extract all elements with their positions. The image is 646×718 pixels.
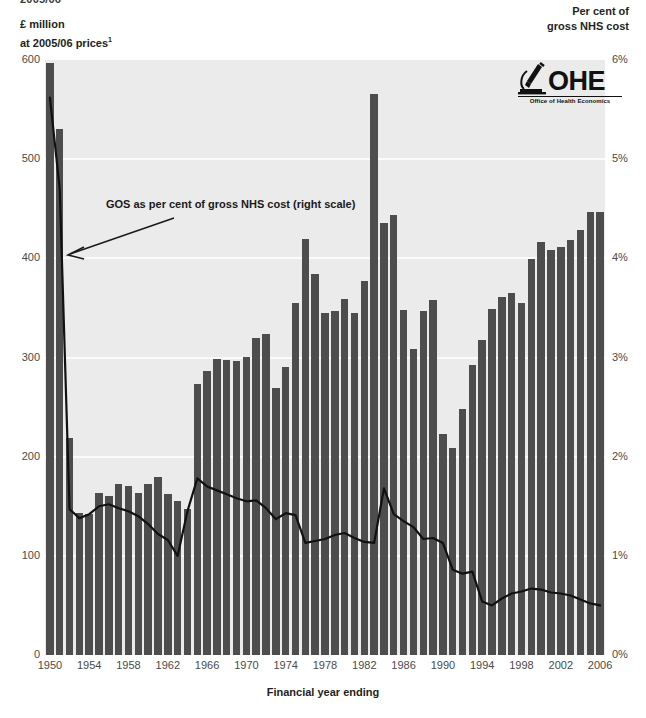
annotation-label: GOS as per cent of gross NHS cost (right… (106, 198, 355, 210)
x-axis-tick-label: 1970 (226, 659, 266, 671)
x-axis-tick-label: 1974 (266, 659, 306, 671)
left-axis-title-line1: £ million (20, 18, 65, 30)
x-axis-tick-label: 1966 (187, 659, 227, 671)
x-axis-tick-label: 2002 (541, 659, 581, 671)
x-axis-tick-label: 1990 (423, 659, 463, 671)
right-axis-tick-label: 1% (612, 549, 642, 561)
microscope-icon (518, 62, 548, 95)
right-axis-title-line2: gross NHS cost (547, 20, 629, 32)
ohe-subtitle: Office of Health Economics (518, 96, 622, 104)
left-axis-tick-label: 600 (0, 53, 40, 65)
x-axis-tick-label: 1950 (30, 659, 70, 671)
left-axis-title: £ million at 2005/06 prices1 (20, 17, 112, 51)
footnote-marker: 1 (108, 36, 112, 43)
right-axis-title-line1: Per cent of (572, 5, 629, 17)
left-axis-tick-label: 300 (0, 351, 40, 363)
plot-area (45, 60, 605, 655)
x-axis-tick-label: 1954 (69, 659, 109, 671)
x-axis-tick-label: 1962 (148, 659, 188, 671)
x-axis-tick-label: 1958 (109, 659, 149, 671)
right-axis-title: Per cent of gross NHS cost (547, 4, 629, 34)
left-axis-tick-label: 400 (0, 251, 40, 263)
x-axis-tick-label: 1982 (344, 659, 384, 671)
left-axis-tick-label: 500 (0, 152, 40, 164)
right-axis-tick-label: 2% (612, 450, 642, 462)
right-axis-tick-label: 5% (612, 152, 642, 164)
left-axis-tick-label: 200 (0, 450, 40, 462)
gos-percent-line (50, 98, 600, 606)
x-axis-tick-label: 1986 (384, 659, 424, 671)
x-axis-title: Financial year ending (0, 686, 646, 698)
line-series-layer (45, 60, 605, 655)
x-axis-tick-label: 2006 (580, 659, 620, 671)
ohe-acronym: OHE (548, 68, 605, 95)
annotation-arrow-icon (58, 214, 178, 262)
right-axis-tick-label: 4% (612, 251, 642, 263)
ohe-logo: OHE Office of Health Economics (518, 62, 622, 106)
left-axis-title-line2: at 2005/06 prices (20, 37, 108, 49)
x-axis-tick-label: 1998 (501, 659, 541, 671)
right-axis-tick-label: 3% (612, 351, 642, 363)
x-axis-tick-label: 1994 (462, 659, 502, 671)
x-axis-tick-label: 1978 (305, 659, 345, 671)
left-axis-tick-label: 100 (0, 549, 40, 561)
title-fragment: 2005/06 (20, 0, 61, 5)
